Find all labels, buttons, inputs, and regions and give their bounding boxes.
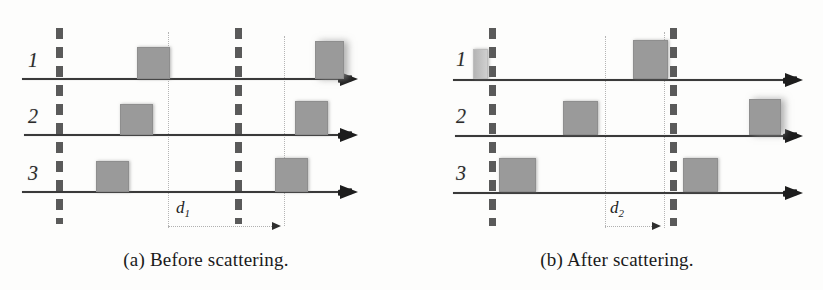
panel-after-scattering: 1 2 3 d2 (b) After scattering. xyxy=(411,0,823,290)
pulse-block-row2-b xyxy=(295,101,328,135)
axis-arrow-row-3 xyxy=(340,185,358,199)
pulse-block-row2-a xyxy=(120,104,153,135)
axis-line-row-1 xyxy=(22,78,344,80)
barrier-left xyxy=(56,28,63,224)
dimension-line-d1 xyxy=(168,226,278,228)
panel-before-scattering: 1 2 3 d1 (a) Before scattering. xyxy=(0,0,412,290)
barrier-right xyxy=(235,28,242,224)
axis-arrow-row-2 xyxy=(340,128,358,142)
pulse-block-row3-b xyxy=(275,158,308,192)
caption-panel-a: (a) Before scattering. xyxy=(0,249,412,271)
axis-line-row-1 xyxy=(453,79,789,81)
pulse-block-row1-b xyxy=(315,41,344,79)
dimension-line-d2 xyxy=(605,226,658,228)
barrier-left xyxy=(489,28,496,226)
measure-guide-left xyxy=(605,36,607,228)
axis-line-row-3 xyxy=(453,192,789,194)
row-label-3: 3 xyxy=(456,163,466,183)
axis-arrow-row-3 xyxy=(785,186,803,200)
pulse-block-row3-a xyxy=(96,161,129,192)
pulse-block-row1-a xyxy=(473,49,488,79)
dimension-arrow-d2 xyxy=(652,222,661,230)
barrier-right xyxy=(670,28,677,226)
row-label-1: 1 xyxy=(28,50,38,70)
axis-arrow-row-1 xyxy=(785,73,803,87)
dimension-label-d1: d1 xyxy=(176,198,190,219)
dimension-label-d2: d2 xyxy=(610,198,624,219)
axis-arrow-row-2 xyxy=(785,129,803,143)
scattering-figure: 1 2 3 d1 (a) Before scattering. xyxy=(0,0,823,290)
pulse-block-row3-a xyxy=(499,158,536,192)
row-label-2: 2 xyxy=(28,106,38,126)
axis-line-row-2 xyxy=(455,135,789,137)
dimension-arrow-d1 xyxy=(272,222,281,230)
row-label-1: 1 xyxy=(456,49,466,69)
row-label-3: 3 xyxy=(28,163,38,183)
pulse-block-row2-b xyxy=(749,99,781,135)
pulse-block-row1-b xyxy=(633,40,668,79)
row-label-2: 2 xyxy=(456,106,466,126)
caption-panel-b: (b) After scattering. xyxy=(411,249,823,271)
pulse-block-row1-a xyxy=(137,47,170,79)
measure-guide-right xyxy=(284,36,286,226)
pulse-block-row3-b xyxy=(683,158,718,192)
pulse-block-row2-a xyxy=(563,101,598,135)
